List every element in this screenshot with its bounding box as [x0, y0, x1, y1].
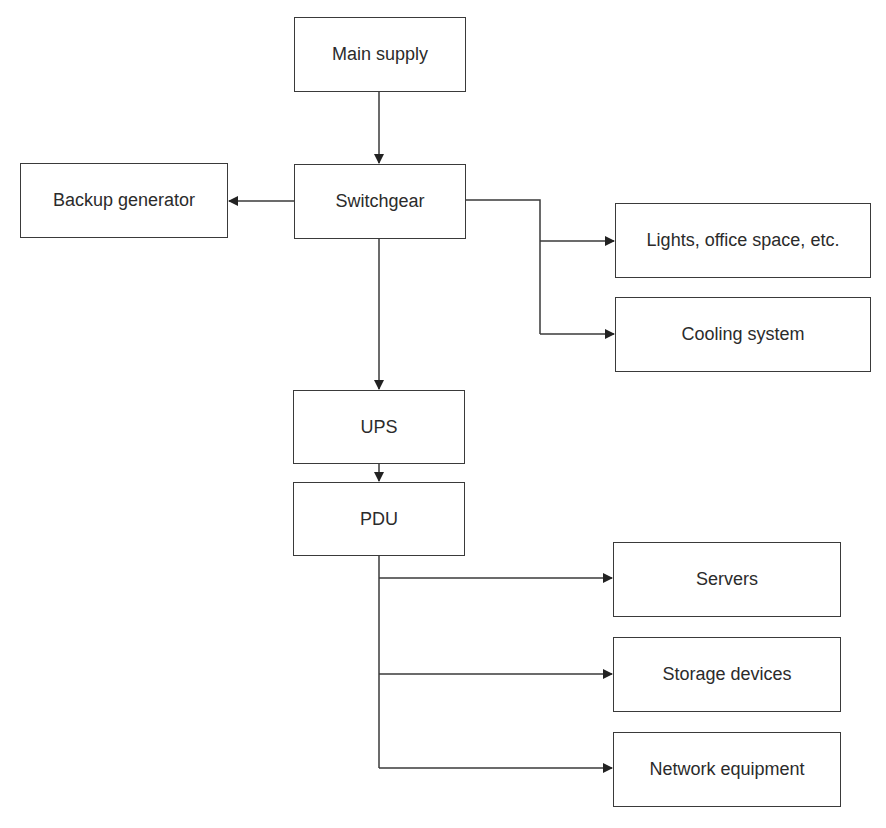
node-backup-generator: Backup generator — [20, 163, 228, 238]
node-ups: UPS — [293, 390, 465, 464]
node-storage-devices: Storage devices — [613, 637, 841, 712]
node-main-supply: Main supply — [294, 17, 466, 92]
node-label: PDU — [360, 509, 398, 530]
node-label: UPS — [360, 417, 397, 438]
cropped-caption — [10, 822, 880, 828]
node-pdu: PDU — [293, 482, 465, 556]
node-lights: Lights, office space, etc. — [615, 203, 871, 278]
node-servers: Servers — [613, 542, 841, 617]
node-label: Network equipment — [649, 759, 804, 780]
node-switchgear: Switchgear — [294, 164, 466, 239]
edge-switchgear-bus — [466, 200, 540, 334]
node-label: Storage devices — [662, 664, 791, 685]
node-label: Lights, office space, etc. — [647, 230, 840, 251]
node-label: Cooling system — [681, 324, 804, 345]
node-network-equipment: Network equipment — [613, 732, 841, 807]
node-label: Servers — [696, 569, 758, 590]
node-label: Main supply — [332, 44, 428, 65]
node-label: Switchgear — [335, 191, 424, 212]
node-cooling-system: Cooling system — [615, 297, 871, 372]
node-label: Backup generator — [53, 190, 195, 211]
